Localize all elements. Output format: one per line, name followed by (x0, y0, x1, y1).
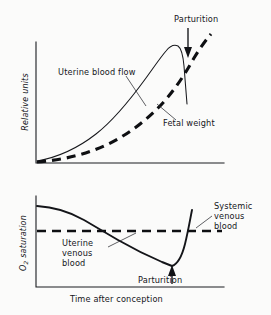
top-parturition-arrowhead (184, 47, 192, 58)
systemic-venous-blood-label-line3: blood (214, 221, 237, 231)
top-parturition-label: Parturition (174, 14, 218, 24)
bottom-panel-xlabel: Time after conception (69, 294, 163, 304)
figure-container: Parturition Uterine blood flow Fetal wei… (0, 0, 271, 315)
uterine-blood-flow-leader (126, 76, 146, 106)
bottom-panel-ylabel-group: O2 saturation (19, 215, 29, 271)
bottom-parturition-label: Parturition (138, 275, 182, 285)
figure-svg: Parturition Uterine blood flow Fetal wei… (0, 0, 271, 315)
systemic-venous-blood-leader (196, 216, 212, 228)
top-panel: Parturition Uterine blood flow Fetal wei… (21, 14, 224, 163)
top-panel-axes (36, 42, 224, 163)
uterine-venous-blood-label-line1: Uterine (62, 238, 93, 248)
systemic-venous-blood-label-line2: venous (214, 211, 244, 221)
o2-label-rest: saturation (19, 215, 28, 261)
bottom-panel-ylabel: O2 saturation (19, 215, 29, 271)
bottom-panel: Systemic venous blood Uterine venous blo… (19, 196, 253, 304)
uterine-venous-blood-label-line3: blood (62, 258, 85, 268)
uterine-venous-blood-curve (37, 206, 192, 266)
top-panel-ylabel: Relative units (21, 73, 30, 131)
uterine-venous-blood-leader (108, 233, 136, 247)
uterine-blood-flow-label: Uterine blood flow (58, 67, 136, 77)
fetal-weight-label: Fetal weight (163, 118, 215, 128)
systemic-venous-blood-label-line1: Systemic (214, 201, 253, 211)
uterine-venous-blood-label-line2: venous (62, 248, 92, 258)
fetal-weight-curve (37, 34, 211, 162)
